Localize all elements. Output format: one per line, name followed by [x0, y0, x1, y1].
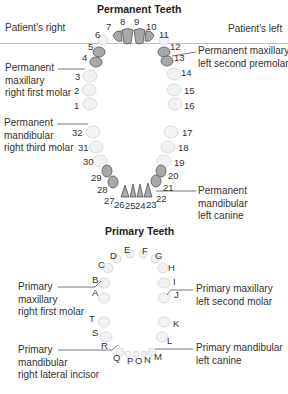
callout-permanent-mandibular-right-third-molar: Permanent mandibular right third molar [4, 117, 73, 155]
tooth-letter-S: S [92, 327, 98, 338]
tooth-number-28: 28 [97, 184, 108, 195]
callout-permanent-maxillary-right-first-molar: Permanent maxillary right first molar [5, 62, 71, 100]
tooth-letter-T: T [89, 313, 95, 324]
tooth-letter-C: C [98, 259, 105, 270]
tooth-number-31: 31 [78, 142, 89, 153]
tooth-number-2: 2 [74, 85, 79, 96]
tooth-number-11: 11 [159, 29, 169, 40]
tooth-letter-A: A [92, 287, 98, 298]
callout-permanent-maxillary-left-second-premolar: Permanent maxillary left second premolar [198, 45, 288, 70]
tooth-letter-F: F [142, 245, 148, 256]
tooth-number-23: 23 [146, 199, 157, 210]
tooth-number-15: 15 [184, 85, 195, 96]
callout-permanent-mandibular-left-canine: Permanent mandibular left canine [198, 185, 247, 223]
tooth-number-17: 17 [182, 127, 193, 138]
tooth-letter-R: R [101, 340, 108, 351]
tooth-number-5: 5 [88, 41, 93, 52]
tooth-number-9: 9 [134, 16, 139, 27]
tooth-number-7: 7 [106, 21, 111, 32]
tooth-letter-H: H [168, 262, 175, 273]
tooth-number-19: 19 [174, 157, 185, 168]
tooth-number-27: 27 [104, 195, 115, 206]
tooth-number-6: 6 [95, 29, 100, 40]
tooth-number-1: 1 [74, 100, 79, 111]
tooth-letter-O: O [135, 355, 142, 366]
tooth-number-13: 13 [174, 52, 185, 63]
tooth-number-16: 16 [184, 100, 195, 111]
tooth-letter-B: B [92, 274, 98, 285]
tooth-number-4: 4 [82, 52, 87, 63]
tooth-number-3: 3 [75, 71, 80, 82]
tooth-letter-J: J [174, 289, 179, 300]
tooth-number-12: 12 [170, 41, 181, 52]
tooth-number-10: 10 [146, 21, 157, 32]
tooth-letter-P: P [127, 355, 133, 366]
tooth-letter-K: K [173, 318, 179, 329]
tooth-letter-D: D [110, 250, 117, 261]
tooth-letter-L: L [167, 335, 172, 346]
tooth-number-29: 29 [91, 172, 102, 183]
primary-teeth-title: Primary Teeth [105, 225, 174, 237]
tooth-number-21: 21 [163, 182, 174, 193]
tooth-letter-E: E [124, 244, 130, 255]
callout-primary-mandibular-right-lateral-incisor: Primary mandibular right lateral incisor [18, 344, 99, 382]
tooth-letter-Q: Q [113, 352, 120, 363]
tooth-letter-M: M [154, 351, 162, 362]
tooth-number-32: 32 [72, 127, 83, 138]
tooth-number-26: 26 [114, 199, 125, 210]
tooth-number-18: 18 [178, 142, 189, 153]
callout-primary-mandibular-left-canine: Primary mandibular left canine [196, 342, 283, 367]
tooth-number-14: 14 [181, 67, 192, 78]
tooth-number-8: 8 [120, 16, 125, 27]
tooth-number-30: 30 [83, 156, 94, 167]
tooth-letter-I: I [173, 276, 176, 287]
tooth-letter-G: G [155, 250, 162, 261]
tooth-number-20: 20 [168, 170, 179, 181]
tooth-letter-N: N [144, 354, 151, 365]
tooth-number-24: 24 [135, 200, 146, 211]
callout-primary-maxillary-right-first-molar: Primary maxillary right first molar [18, 281, 84, 319]
callout-primary-maxillary-left-second-molar: Primary maxillary left second molar [196, 283, 273, 308]
tooth-number-22: 22 [156, 193, 167, 204]
tooth-number-25: 25 [125, 200, 136, 211]
